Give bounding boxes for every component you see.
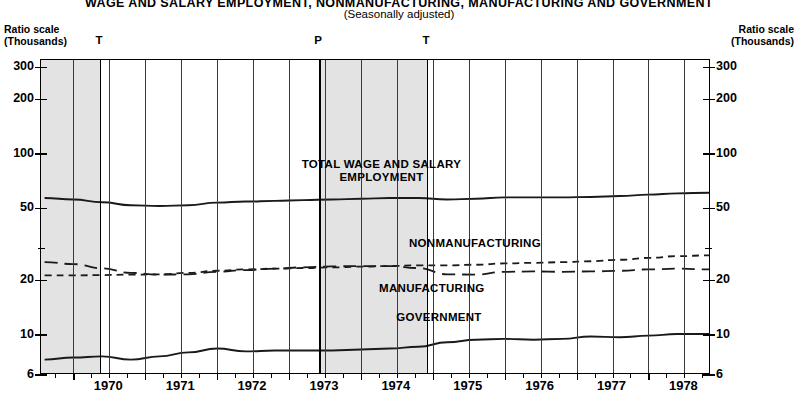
x-tick: [361, 373, 362, 380]
cycle-marker-t: T: [423, 34, 430, 46]
y-axis-labels: 30030020020010010050502020101066: [40, 59, 710, 374]
x-tick: [289, 373, 290, 380]
cycle-marker-p: P: [314, 34, 322, 46]
x-tick-label-1978: 1978: [669, 378, 698, 393]
series-annotation-total-wage-and-salary-employment: TOTAL WAGE AND SALARYEMPLOYMENT: [302, 158, 461, 184]
series-annotation-manufacturing: MANUFACTURING: [379, 282, 484, 295]
series-annotation-nonmanufacturing: NONMANUFACTURING: [409, 237, 541, 250]
x-tick: [217, 373, 218, 380]
x-tick-label-1970: 1970: [94, 378, 123, 393]
y-tick-label-left: 300: [6, 59, 34, 73]
y-tick-label-right: 20: [716, 272, 746, 286]
right-axis-caption-line2: (Thousands): [731, 35, 794, 47]
y-tick-label-right: 10: [716, 327, 746, 341]
y-tick-label-left: 100: [6, 146, 34, 160]
y-tick-label-left: 200: [6, 91, 34, 105]
x-tick-label-1973: 1973: [309, 378, 338, 393]
x-tick-label-1974: 1974: [381, 378, 410, 393]
x-tick: [648, 373, 649, 380]
y-tick-label-right: 6: [716, 367, 746, 381]
x-tick-label-1975: 1975: [453, 378, 482, 393]
left-axis-caption: Ratio scale (Thousands): [4, 23, 67, 47]
x-tick-label-1972: 1972: [238, 378, 267, 393]
y-tick-label-right: 50: [716, 200, 746, 214]
y-tick-label-right: 200: [716, 91, 746, 105]
chart-subtitle: (Seasonally adjusted): [0, 8, 798, 20]
y-tick-label-left: 20: [6, 272, 34, 286]
right-axis-caption: Ratio scale (Thousands): [731, 23, 794, 47]
y-tick-label-left: 10: [6, 327, 34, 341]
y-tick-label-left: 6: [6, 367, 34, 381]
x-tick: [433, 373, 434, 380]
right-axis-caption-line1: Ratio scale: [731, 23, 794, 35]
x-tick: [145, 373, 146, 380]
y-tick-label-right: 100: [716, 146, 746, 160]
series-annotation-total-line2: EMPLOYMENT: [302, 171, 461, 184]
y-tick-label-right: 300: [716, 59, 746, 73]
x-tick: [505, 373, 506, 380]
y-tick: [35, 374, 47, 375]
left-axis-caption-line1: Ratio scale: [4, 23, 67, 35]
cycle-marker-t: T: [95, 34, 102, 46]
y-tick-label-left: 50: [6, 200, 34, 214]
x-tick-label-1971: 1971: [166, 378, 195, 393]
series-annotation-total-line1: TOTAL WAGE AND SALARY: [302, 158, 461, 171]
x-tick: [73, 373, 74, 380]
chart-root: WAGE AND SALARY EMPLOYMENT, NONMANUFACTU…: [0, 0, 798, 405]
left-axis-caption-line2: (Thousands): [4, 35, 67, 47]
x-tick-label-1976: 1976: [525, 378, 554, 393]
x-tick-label-1977: 1977: [597, 378, 626, 393]
y-tick: [703, 374, 715, 375]
series-annotation-government: GOVERNMENT: [396, 311, 481, 324]
x-tick: [577, 373, 578, 380]
